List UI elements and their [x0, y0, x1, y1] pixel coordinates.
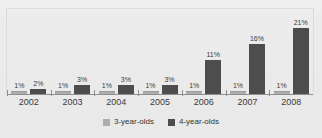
bar-item: 1% — [99, 10, 115, 95]
x-axis-tick-labels: 2002200320042005200620072008 — [7, 96, 313, 108]
bar-value-label: 1% — [189, 82, 199, 90]
bar-item: 3% — [118, 10, 134, 95]
legend-swatch-icon — [103, 119, 110, 126]
x-axis-year-label: 2006 — [182, 96, 226, 108]
legend-item[interactable]: 4-year-olds — [168, 117, 219, 127]
bar-chart: 1%2%1%3%1%3%1%3%1%11%1%16%1%21% 20022003… — [0, 0, 322, 138]
bar-item: 1% — [143, 10, 159, 95]
bar-pair: 1%3% — [138, 10, 182, 95]
bar-value-label: 16% — [250, 35, 264, 43]
bar-item: 3% — [162, 10, 178, 95]
bar-item: 2% — [30, 10, 46, 95]
x-axis-year-label: 2007 — [226, 96, 270, 108]
bar-value-label: 1% — [102, 82, 112, 90]
bar-item: 1% — [230, 10, 246, 95]
bar-group: 1%2% — [7, 10, 51, 95]
bar-value-label: 1% — [145, 82, 155, 90]
chart-frame-top-border — [6, 8, 314, 9]
x-axis-year-label: 2003 — [51, 96, 95, 108]
bar-value-label: 21% — [294, 19, 308, 27]
bar-value-label: 3% — [121, 76, 131, 84]
bar-item: 1% — [186, 10, 202, 95]
bar-group: 1%16% — [226, 10, 270, 95]
bar-value-label: 1% — [58, 82, 68, 90]
bar-group: 1%11% — [182, 10, 226, 95]
bar-item: 21% — [293, 10, 309, 95]
bar-value-label: 1% — [14, 82, 24, 90]
bar-pair: 1%2% — [7, 10, 51, 95]
bar-rect — [205, 60, 221, 95]
bar-value-label: 1% — [233, 82, 243, 90]
x-axis-year-label: 2008 — [269, 96, 313, 108]
bar-item: 1% — [55, 10, 71, 95]
bar-group: 1%21% — [269, 10, 313, 95]
bar-pair: 1%21% — [269, 10, 313, 95]
bar-group: 1%3% — [51, 10, 95, 95]
bar-rect — [249, 44, 265, 95]
legend-label: 3-year-olds — [114, 117, 154, 127]
bar-group: 1%3% — [138, 10, 182, 95]
legend-item[interactable]: 3-year-olds — [103, 117, 154, 127]
bar-value-label: 3% — [164, 76, 174, 84]
bar-groups: 1%2%1%3%1%3%1%3%1%11%1%16%1%21% — [7, 10, 313, 95]
bar-value-label: 2% — [33, 80, 43, 88]
x-axis-year-label: 2005 — [138, 96, 182, 108]
bar-item: 16% — [249, 10, 265, 95]
bar-rect — [293, 28, 309, 95]
x-axis-baseline — [7, 94, 313, 95]
legend-label: 4-year-olds — [179, 117, 219, 127]
bar-pair: 1%16% — [226, 10, 270, 95]
x-axis-year-label: 2002 — [7, 96, 51, 108]
bar-value-label: 1% — [277, 82, 287, 90]
bar-pair: 1%3% — [51, 10, 95, 95]
bar-pair: 1%3% — [94, 10, 138, 95]
bar-item: 11% — [205, 10, 221, 95]
bar-group: 1%3% — [94, 10, 138, 95]
bar-item: 3% — [74, 10, 90, 95]
legend-swatch-icon — [168, 119, 175, 126]
x-axis-year-label: 2004 — [94, 96, 138, 108]
bar-item: 1% — [274, 10, 290, 95]
bar-item: 1% — [11, 10, 27, 95]
chart-legend: 3-year-olds4-year-olds — [0, 117, 322, 127]
chart-frame-right-border — [313, 8, 314, 95]
bar-pair: 1%11% — [182, 10, 226, 95]
bar-value-label: 11% — [206, 51, 220, 59]
bar-value-label: 3% — [77, 76, 87, 84]
